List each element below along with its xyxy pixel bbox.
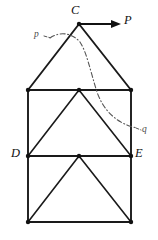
truss-diagram-figure: C P p q D E	[0, 0, 158, 240]
lower-diagonal-left	[28, 156, 79, 222]
joint-top-right	[129, 88, 133, 92]
joint-mid-left-d	[26, 154, 30, 158]
joint-top-left	[26, 88, 30, 92]
roof-triangle	[28, 24, 131, 90]
label-force-p: P	[124, 14, 132, 27]
upper-diagonal-right	[79, 90, 131, 156]
label-node-d: D	[11, 147, 20, 160]
section-leader-p	[44, 36, 51, 38]
truss-diagram-canvas	[0, 0, 158, 240]
force-arrow-head	[111, 20, 121, 28]
section-leader-q	[136, 128, 141, 130]
joint-bottom-right	[129, 220, 133, 224]
force-arrow-p	[79, 20, 121, 28]
joint-markers	[26, 22, 133, 224]
joint-mid-centre	[77, 154, 81, 158]
joint-bottom-left	[26, 220, 30, 224]
joint-top-centre	[77, 88, 81, 92]
lower-panel-diagonals	[28, 156, 131, 222]
label-apex-c: C	[71, 4, 79, 17]
label-node-e: E	[135, 147, 143, 160]
joint-apex-c	[77, 22, 81, 26]
label-section-p: p	[34, 30, 39, 40]
lower-diagonal-right	[79, 156, 131, 222]
upper-diagonal-left	[28, 90, 79, 156]
joint-mid-right-e	[129, 154, 133, 158]
upper-panel-diagonals	[28, 90, 131, 156]
label-section-q: q	[142, 125, 147, 135]
roof-rafter-right	[79, 24, 131, 90]
